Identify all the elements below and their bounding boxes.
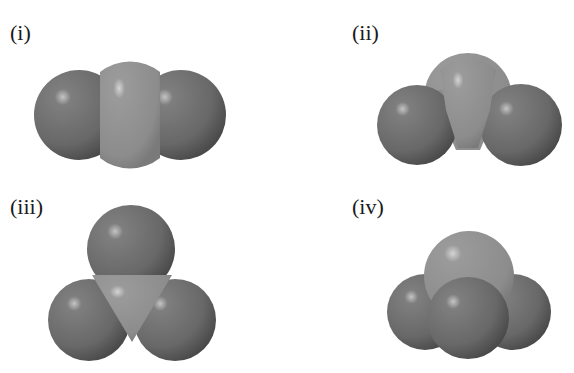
molecule-linear (34, 61, 226, 168)
panel-label-ii: (ii) (352, 20, 379, 46)
panel-label-i: (i) (10, 20, 31, 46)
molecule-trigonal-planar (48, 205, 216, 361)
outer-atom (427, 277, 509, 359)
molecule-trigonal-pyramidal (387, 231, 551, 359)
central-atom (100, 61, 160, 168)
molecule-bent (377, 53, 562, 166)
molecule-figure (0, 0, 574, 373)
panel-label-iv: (iv) (352, 194, 384, 220)
panel-label-iii: (iii) (10, 194, 43, 220)
